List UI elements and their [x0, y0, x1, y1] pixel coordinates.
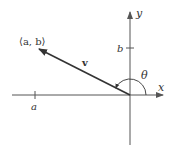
- vector-label: v: [81, 57, 89, 68]
- x-axis-label: x: [158, 81, 165, 94]
- angle-label: θ: [141, 69, 148, 82]
- vector-diagram: ⟨a, b⟩ v θ x y a b: [0, 0, 175, 151]
- point-label: ⟨a, b⟩: [19, 36, 46, 47]
- y-axis-label: y: [135, 7, 143, 20]
- vector-v: [39, 49, 130, 95]
- x-tick-label-a: a: [31, 101, 37, 112]
- y-tick-label-b: b: [117, 43, 123, 54]
